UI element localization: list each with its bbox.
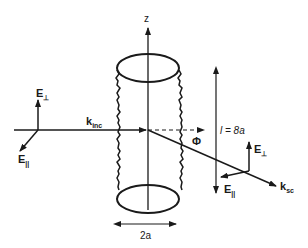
cylinder-scattering-diagram	[0, 0, 308, 248]
e-par-incident-arrow	[20, 130, 38, 151]
length-label: l = 8a	[220, 126, 245, 136]
e-par-scattered-arrow	[221, 171, 249, 177]
z-axis-label: z	[144, 14, 149, 24]
e-par-scattered-label: E||	[224, 184, 235, 197]
scattered-wave-line	[148, 130, 276, 186]
phi-label: Φ	[192, 136, 201, 147]
length-text: l = 8a	[220, 125, 245, 136]
k-sc-sub: sc	[286, 187, 294, 194]
diameter-label: 2a	[140, 231, 151, 241]
e-perp-scattered-sub: ⊥	[261, 150, 267, 157]
e-perp-incident-label: E⊥	[36, 88, 49, 101]
e-par-incident-sub: ||	[25, 160, 29, 167]
k-inc-label: kinc	[86, 116, 102, 129]
e-par-incident-label: E||	[18, 154, 29, 167]
e-perp-scattered-label: E⊥	[254, 144, 267, 157]
e-perp-incident-sub: ⊥	[43, 94, 49, 101]
e-par-scattered-sub: ||	[231, 190, 235, 197]
k-inc-sub: inc	[92, 122, 102, 129]
k-sc-label: ksc	[280, 181, 294, 194]
